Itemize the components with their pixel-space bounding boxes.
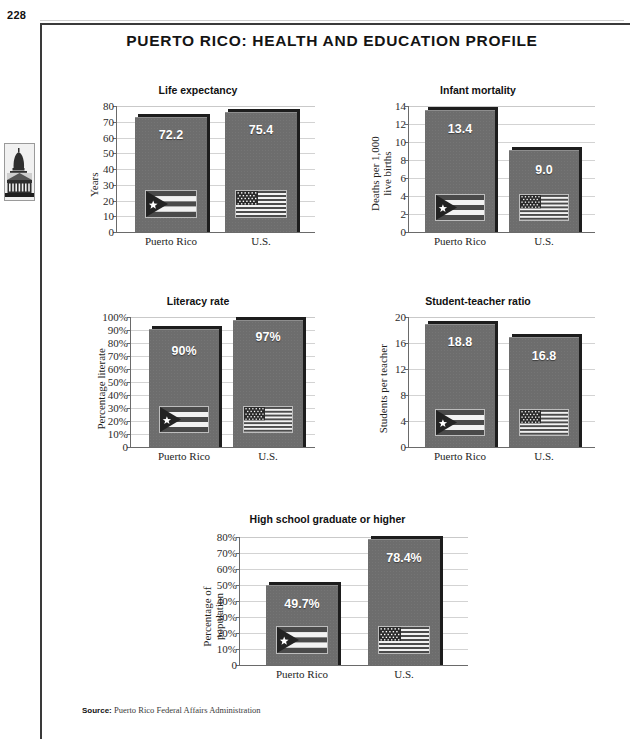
y-tick: 50 (103, 147, 114, 159)
capitol-building-icon (4, 143, 35, 201)
y-axis-label: Students per teacher (378, 321, 390, 457)
us-flag (519, 194, 569, 221)
source-note: Source: Puerto Rico Federal Affairs Admi… (82, 705, 261, 715)
y-tick: 12 (395, 118, 406, 130)
plot-area: 80% 70% 60% 50% 40% 30% 20% 10% 0 49.7% (239, 537, 468, 666)
y-tick: 30% (217, 611, 237, 623)
bar-value: 49.7% (266, 597, 338, 611)
y-tick: 60% (217, 563, 237, 575)
plot-area: 20 16 12 8 4 0 18.8 Puerto Rico (408, 317, 595, 448)
y-tick: 8 (401, 154, 407, 166)
us-flag (243, 406, 293, 433)
y-tick: 16 (395, 337, 406, 349)
bar-puerto-rico[interactable]: 49.7% (266, 585, 338, 666)
y-tick: 0 (109, 226, 115, 238)
bar-us[interactable]: 9.0 (509, 150, 579, 232)
category-label: U.S. (499, 450, 589, 462)
bar-value: 16.8 (509, 349, 579, 363)
y-tick: 60 (103, 132, 114, 144)
bar-us[interactable]: 16.8 (509, 337, 579, 447)
chart-title: Infant mortality (358, 84, 598, 96)
y-tick: 30% (108, 402, 128, 414)
category-label: U.S. (223, 450, 313, 462)
puerto-rico-flag (159, 406, 209, 433)
chart-title: Life expectancy (78, 84, 318, 96)
y-tick: 20% (217, 627, 237, 639)
us-flag (378, 626, 430, 654)
y-tick: 40% (108, 389, 128, 401)
puerto-rico-flag (145, 190, 197, 218)
y-axis-label: Deaths per 1,000 live births (370, 118, 393, 230)
puerto-rico-flag (435, 409, 485, 436)
y-tick: 10% (108, 428, 128, 440)
y-tick: 2 (401, 208, 407, 220)
chart-title: High school graduate or higher (185, 513, 470, 525)
y-tick: 0 (232, 659, 238, 671)
bar-puerto-rico[interactable]: 13.4 (425, 110, 495, 232)
page-number: 228 (7, 9, 26, 21)
chart-title: Student-teacher ratio (358, 295, 598, 307)
chart-life-expectancy: Life expectancy Years 80 70 60 50 40 30 … (78, 84, 318, 250)
bar-value: 97% (233, 330, 303, 344)
puerto-rico-flag (276, 626, 328, 654)
category-label: Puerto Rico (415, 235, 505, 247)
bar-value: 18.8 (425, 335, 495, 349)
y-tick: 12 (395, 363, 406, 375)
bar-puerto-rico[interactable]: 72.2 (135, 117, 207, 232)
y-tick: 70% (108, 350, 128, 362)
y-tick: 8 (401, 389, 407, 401)
source-label: Source: (82, 706, 112, 715)
chart-high-school-graduate: High school graduate or higher Percentag… (185, 513, 470, 688)
y-axis-label: Percentage literate (96, 325, 108, 453)
bar-value: 13.4 (425, 122, 495, 136)
y-tick: 10 (395, 136, 406, 148)
page-title: PUERTO RICO: HEALTH AND EDUCATION PROFIL… (40, 32, 624, 50)
category-label: U.S. (499, 235, 589, 247)
y-tick: 70% (217, 547, 237, 559)
y-tick: 50% (108, 376, 128, 388)
bar-value: 75.4 (225, 123, 297, 137)
y-tick: 80% (108, 337, 128, 349)
source-text: Puerto Rico Federal Affairs Administrati… (114, 705, 261, 715)
chart-title: Literacy rate (78, 295, 318, 307)
y-tick: 30 (103, 179, 114, 191)
bar-us[interactable]: 78.4% (368, 539, 440, 665)
y-tick: 0 (401, 441, 407, 453)
y-tick: 90% (108, 324, 128, 336)
y-tick: 4 (401, 190, 407, 202)
us-flag (235, 190, 287, 218)
category-label: Puerto Rico (139, 450, 229, 462)
bar-value: 78.4% (368, 551, 440, 565)
chart-infant-mortality: Infant mortality Deaths per 1,000 live b… (358, 84, 598, 250)
category-label: U.S. (358, 668, 450, 680)
y-tick: 10% (217, 643, 237, 655)
y-tick: 50% (217, 579, 237, 591)
puerto-rico-flag (435, 194, 485, 221)
y-tick: 100% (102, 311, 128, 323)
category-label: Puerto Rico (256, 668, 348, 680)
y-tick: 4 (401, 415, 407, 427)
y-tick: 40% (217, 595, 237, 607)
bar-value: 9.0 (509, 163, 579, 177)
plot-area: 80 70 60 50 40 30 20 10 0 72.2 (116, 106, 315, 233)
header-rule (40, 20, 624, 21)
category-label: U.S. (215, 235, 307, 247)
chart-literacy-rate: Literacy rate Percentage literate 100% 9… (78, 295, 318, 465)
bar-us[interactable]: 75.4 (225, 112, 297, 232)
y-tick: 10 (103, 210, 114, 222)
y-tick: 20 (103, 195, 114, 207)
y-tick: 70 (103, 116, 114, 128)
y-tick: 40 (103, 163, 114, 175)
plot-area: 14 12 10 8 6 4 2 0 13.4 Puerto (408, 106, 595, 233)
bar-puerto-rico[interactable]: 90% (149, 329, 219, 447)
y-tick: 0 (123, 441, 129, 453)
bar-us[interactable]: 97% (233, 320, 303, 447)
y-tick: 60% (108, 363, 128, 375)
bar-puerto-rico[interactable]: 18.8 (425, 324, 495, 447)
y-tick: 0 (401, 226, 407, 238)
category-label: Puerto Rico (125, 235, 217, 247)
y-tick: 14 (395, 100, 406, 112)
category-label: Puerto Rico (415, 450, 505, 462)
y-tick: 20% (108, 415, 128, 427)
chart-student-teacher-ratio: Student-teacher ratio Students per teach… (358, 295, 598, 465)
